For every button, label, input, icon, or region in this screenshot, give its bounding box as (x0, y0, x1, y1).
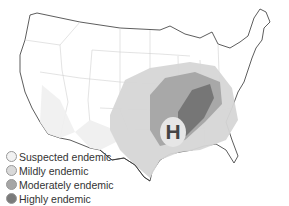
legend-item-high: Highly endemic (6, 192, 114, 205)
circle-icon (6, 151, 17, 162)
legend-item-suspected: Suspected endemic (6, 150, 114, 163)
circle-icon (6, 179, 17, 190)
legend-item-mild: Mildly endemic (6, 164, 114, 177)
circle-icon (6, 165, 17, 176)
endemic-map-figure: H Suspected endemic Mildly endemic Moder… (0, 0, 289, 206)
legend: Suspected endemic Mildly endemic Moderat… (6, 150, 114, 206)
circle-icon (6, 193, 17, 204)
legend-item-moderate: Moderately endemic (6, 178, 114, 191)
h-marker-icon: H (160, 117, 186, 147)
